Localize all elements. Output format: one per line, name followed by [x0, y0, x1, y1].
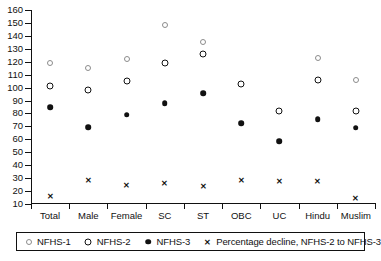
x-axis-tick — [69, 204, 70, 209]
data-point — [162, 100, 168, 106]
legend-item[interactable]: NFHS-1 — [24, 237, 71, 247]
x-axis-tick-label: Female — [111, 210, 143, 221]
legend-item[interactable]: NFHS-3 — [143, 237, 190, 247]
data-point — [47, 60, 53, 66]
x-axis-tick — [146, 204, 147, 209]
y-axis-tick-label: 20 — [0, 186, 23, 196]
data-point — [124, 112, 130, 118]
x-axis-tick-label: Hindu — [305, 210, 330, 221]
data-point — [200, 91, 206, 97]
x-axis-tick — [31, 204, 32, 209]
y-axis-tick-label: 150 — [0, 18, 23, 28]
x-axis-tick — [184, 204, 185, 209]
x-axis-tick — [299, 204, 300, 209]
legend-item[interactable]: NFHS-2 — [84, 237, 131, 247]
data-point — [47, 83, 54, 90]
x-axis-tick — [107, 204, 108, 209]
x-axis-tick-label: SC — [158, 210, 171, 221]
y-axis-tick-label: 80 — [0, 108, 23, 118]
legend-item-label: Percentage decline, NFHS-2 to NFHS-3 — [216, 237, 381, 247]
legend-symbol-glyph — [26, 239, 32, 245]
y-axis-tick-label: 60 — [0, 134, 23, 144]
legend-symbol-glyph — [203, 237, 212, 246]
data-point — [200, 39, 206, 45]
data-point — [47, 104, 53, 110]
y-axis-tick-label: 70 — [0, 121, 23, 131]
data-point — [46, 192, 55, 201]
x-axis-tick-label: Muslim — [341, 210, 371, 221]
x-axis-tick — [375, 204, 376, 209]
data-point — [124, 56, 130, 62]
data-point — [161, 60, 168, 67]
x-axis-tick-label: Total — [40, 210, 60, 221]
x-axis-tick-label: UC — [273, 210, 287, 221]
x-axis-tick-label: Male — [78, 210, 99, 221]
x-axis-tick-label: ST — [197, 210, 209, 221]
y-axis-tick-label: 120 — [0, 57, 23, 67]
data-point — [122, 181, 131, 190]
data-point — [238, 120, 244, 126]
x-axis-tick — [337, 204, 338, 209]
y-axis-tick-label: 110 — [0, 70, 23, 80]
y-axis-tick-label: 40 — [0, 160, 23, 170]
x-axis-tick — [260, 204, 261, 209]
data-point — [277, 138, 283, 144]
data-point — [315, 116, 321, 122]
scatter-chart: 160150140130120110100908070605040302010 … — [0, 0, 381, 261]
data-point — [84, 176, 93, 185]
data-point — [275, 177, 284, 186]
data-point — [313, 176, 322, 185]
data-point — [237, 176, 246, 185]
data-point — [315, 55, 321, 61]
data-point — [238, 81, 245, 88]
data-point — [160, 179, 169, 188]
legend-item-label: NFHS-3 — [156, 237, 190, 247]
y-axis-tick-label: 160 — [0, 5, 23, 15]
legend-symbol-glyph — [85, 238, 92, 245]
data-point — [353, 77, 359, 83]
y-axis-tick-label: 10 — [0, 199, 23, 209]
y-axis-tick-label: 30 — [0, 173, 23, 183]
data-point — [314, 76, 321, 83]
y-axis-tick-label: 130 — [0, 44, 23, 54]
y-axis-tick-label: 90 — [0, 96, 23, 106]
y-axis-tick-label: 140 — [0, 31, 23, 41]
chart-legend: NFHS-1NFHS-2NFHS-3Percentage decline, NF… — [16, 232, 365, 251]
data-point — [123, 78, 130, 85]
data-point — [200, 50, 207, 57]
data-point — [86, 124, 92, 130]
legend-item-label: NFHS-2 — [97, 237, 131, 247]
legend-symbol-glyph — [145, 239, 151, 245]
data-point — [199, 181, 208, 190]
x-cross-icon — [203, 237, 212, 246]
legend-item[interactable]: Percentage decline, NFHS-2 to NFHS-3 — [203, 237, 381, 247]
open-circle-bold-icon — [84, 237, 93, 246]
data-point — [85, 65, 91, 71]
data-point — [276, 107, 283, 114]
x-axis-tick — [222, 204, 223, 209]
open-circle-light-icon — [24, 237, 33, 246]
y-axis-tick-label: 50 — [0, 147, 23, 157]
data-point — [85, 87, 92, 94]
data-point — [162, 22, 168, 28]
y-axis-tick-label: 100 — [0, 83, 23, 93]
x-axis-tick-label: OBC — [231, 210, 252, 221]
data-point — [353, 125, 359, 131]
filled-circle-icon — [143, 237, 152, 246]
data-point — [351, 194, 360, 203]
legend-item-label: NFHS-1 — [37, 237, 71, 247]
data-point — [352, 107, 359, 114]
